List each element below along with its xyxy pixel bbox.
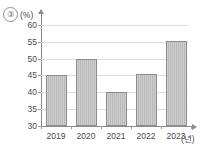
- y-axis-tick-label: 55: [28, 37, 37, 47]
- x-axis-tick-mark: [161, 126, 162, 129]
- x-axis-unit-label: (년): [181, 132, 195, 144]
- x-axis-tick-mark: [41, 126, 42, 129]
- y-axis-tick-mark: [38, 109, 41, 110]
- x-axis-tick-label: 2022: [137, 131, 156, 141]
- x-axis-tick-mark: [71, 126, 72, 129]
- y-axis-tick-label: 30: [28, 121, 37, 131]
- y-axis-tick-mark: [38, 42, 41, 43]
- x-axis-arrow-icon: [192, 124, 197, 130]
- y-axis-tick-mark: [38, 92, 41, 93]
- y-axis-tick-mark: [38, 75, 41, 76]
- y-axis-tick-label: 40: [28, 87, 37, 97]
- y-axis-tick-mark: [38, 25, 41, 26]
- bar: [166, 41, 187, 126]
- item-number-badge: ③: [3, 7, 18, 22]
- gridline: [41, 25, 188, 26]
- y-axis-tick-mark: [38, 59, 41, 60]
- x-axis-tick-mark: [131, 126, 132, 129]
- y-axis-tick-label: 60: [28, 20, 37, 30]
- x-axis-tick-mark: [101, 126, 102, 129]
- gridline: [41, 126, 188, 127]
- y-axis-tick-label: 35: [28, 104, 37, 114]
- bar: [136, 74, 157, 126]
- bar: [106, 92, 127, 126]
- bar-chart-figure: ③ (%) 30354045505560 2019202020212022202…: [0, 0, 208, 148]
- y-axis-unit-label: (%): [20, 10, 33, 20]
- y-axis-tick-label: 50: [28, 54, 37, 64]
- bar: [46, 75, 67, 126]
- plot-area: 30354045505560: [41, 18, 191, 126]
- x-axis-tick-label: 2020: [77, 131, 96, 141]
- x-axis-tick-mark: [191, 126, 192, 129]
- y-axis-tick-label: 45: [28, 70, 37, 80]
- bar: [76, 59, 97, 127]
- x-axis-tick-label: 2021: [107, 131, 126, 141]
- y-axis-arrow-icon: [38, 9, 44, 14]
- x-axis-tick-label: 2019: [47, 131, 66, 141]
